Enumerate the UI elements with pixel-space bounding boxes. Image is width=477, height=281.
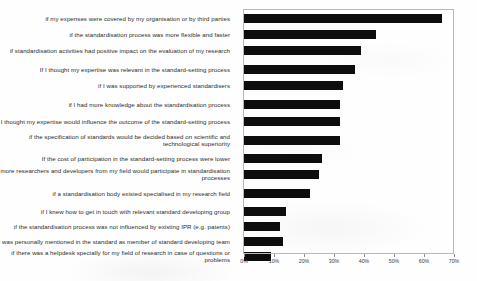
category-label: if I was supported by experienced standa… xyxy=(0,82,233,89)
x-axis: 0%10%20%30%40%50%60%70% xyxy=(243,254,455,258)
category-label: if more researchers and developers from … xyxy=(0,167,233,182)
axis-tick-label: 10% xyxy=(269,258,279,264)
axis-tick xyxy=(424,254,425,257)
category-label: If the cost of participation in the stan… xyxy=(0,155,233,162)
category-label: if the specification of standards would … xyxy=(0,133,233,148)
axis-tick-label: 20% xyxy=(299,258,309,264)
axis-tick xyxy=(304,254,305,257)
axis-tick-label: 0% xyxy=(240,258,248,264)
category-label: if I had more knowledge about the standa… xyxy=(0,101,233,108)
category-label: If I thought my expertise was relevant i… xyxy=(0,66,233,73)
axis-tick-label: 50% xyxy=(389,258,399,264)
axis-tick xyxy=(394,254,395,257)
category-label: if the standardisation process was more … xyxy=(0,31,233,38)
axis-tick-label: 60% xyxy=(419,258,429,264)
category-label: if my expenses were covered by my organi… xyxy=(0,15,233,22)
axis-tick-label: 30% xyxy=(329,258,339,264)
category-label: if there was a helpdesk specially for my… xyxy=(0,249,233,264)
plot-frame xyxy=(243,9,454,254)
axis-tick xyxy=(454,254,455,257)
axis-tick xyxy=(364,254,365,257)
axis-tick-label: 40% xyxy=(359,258,369,264)
axis-tick xyxy=(334,254,335,257)
category-label: if a standardisation body existed specia… xyxy=(0,190,233,197)
category-label: If I was personally mentioned in the sta… xyxy=(0,238,233,245)
category-label: if standardisation activities had positi… xyxy=(0,47,233,54)
axis-tick xyxy=(244,254,245,257)
category-label: if I knew how to get in touch with relev… xyxy=(0,208,233,215)
axis-tick-label: 70% xyxy=(449,258,459,264)
category-label: if I thought my expertise would influenc… xyxy=(0,118,233,125)
axis-tick xyxy=(274,254,275,257)
bar-chart: if my expenses were covered by my organi… xyxy=(0,0,477,281)
category-label: if the standardisation process was not i… xyxy=(0,223,233,230)
